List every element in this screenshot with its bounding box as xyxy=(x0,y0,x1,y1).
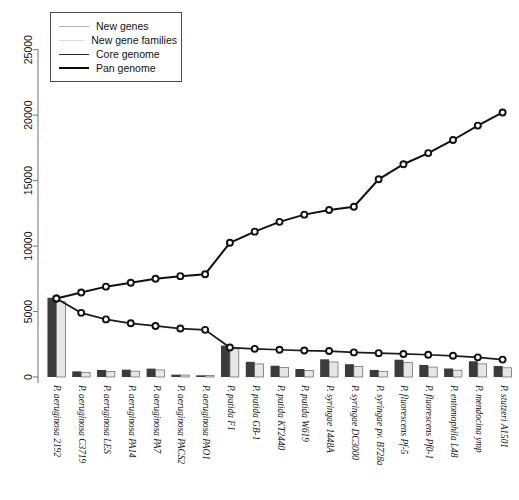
pan-genome-point xyxy=(351,204,357,210)
core-genome-point xyxy=(128,320,134,326)
core-genome-point xyxy=(351,349,357,355)
x-tick-label: P. aeruginosa PACS2 xyxy=(176,384,186,464)
x-tick-label: P. syringae 1448A xyxy=(325,384,335,453)
bar-new-genes xyxy=(196,375,205,377)
pan-genome-point xyxy=(400,161,406,167)
bar-new-gene-families xyxy=(403,362,412,377)
x-tick-label: P. fluorescens Pf0-1 xyxy=(424,384,434,459)
core-genome-point xyxy=(103,316,109,322)
legend-swatch-icon xyxy=(59,26,89,27)
x-tick-label: P. putida F1 xyxy=(226,384,236,431)
x-tick-label: P. fluorescens Pf-5 xyxy=(399,384,409,455)
y-tick-label: 15000 xyxy=(22,166,34,195)
core-genome-point xyxy=(202,327,208,333)
pan-genome-point xyxy=(227,240,233,246)
core-genome-point xyxy=(177,326,183,332)
x-tick-label: P. aeruginosa PAO1 xyxy=(201,384,211,460)
bar-new-genes xyxy=(171,375,180,377)
pan-genome-point xyxy=(177,273,183,279)
bar-new-gene-families xyxy=(478,364,487,377)
pan-genome-point xyxy=(103,284,109,290)
pan-genome-point xyxy=(500,109,506,115)
x-tick-label: P. aeruginosa PA14 xyxy=(127,384,137,458)
x-tick-label: P. entomophila L48 xyxy=(449,384,459,458)
bar-group xyxy=(469,361,487,377)
legend-label: New gene families xyxy=(91,34,177,46)
x-tick-label: P. aeruginosa C3719 xyxy=(77,384,87,463)
core-genome-point xyxy=(475,354,481,360)
legend-item: Pan genome xyxy=(51,61,177,75)
core-genome-point xyxy=(301,348,307,354)
bar-new-gene-families xyxy=(503,368,512,377)
x-tick-label: P. stutzeri A1501 xyxy=(498,384,508,448)
bar-new-genes xyxy=(345,364,354,377)
x-tick-label: P. syringae DC3000 xyxy=(350,384,360,460)
bar-new-genes xyxy=(72,371,81,377)
pan-genome-point xyxy=(475,123,481,129)
bar-group xyxy=(370,370,388,377)
legend-label: New genes xyxy=(96,20,149,32)
bar-group xyxy=(122,370,140,377)
bar-new-genes xyxy=(47,298,56,377)
bar-new-gene-families xyxy=(230,349,239,377)
chart-legend: New genesNew gene familiesCore genomePan… xyxy=(50,12,182,82)
bar-group xyxy=(196,375,214,377)
y-tick-label: 25000 xyxy=(22,35,34,64)
core-genome-point xyxy=(425,352,431,358)
bar-new-genes xyxy=(320,359,329,377)
core-genome-point xyxy=(400,351,406,357)
x-axis-labels: P. aeruginosa 2192P. aeruginosa C3719P. … xyxy=(52,384,508,466)
bar-group xyxy=(494,366,512,377)
bar-new-gene-families xyxy=(131,371,140,377)
legend-swatch-icon xyxy=(59,40,84,41)
bar-new-genes xyxy=(122,370,131,377)
legend-item: Core genome xyxy=(51,47,177,61)
core-genome-point xyxy=(500,357,506,363)
bar-group xyxy=(47,298,65,377)
bar-new-gene-families xyxy=(255,364,264,377)
legend-item: New gene families xyxy=(51,33,177,47)
pan-genome-point xyxy=(252,229,258,235)
x-tick-label: P. mendocina ymp xyxy=(474,384,484,453)
bar-new-gene-families xyxy=(329,362,338,377)
pan-genome-point xyxy=(326,207,332,213)
core-genome-point xyxy=(153,323,159,329)
bar-group xyxy=(444,368,462,377)
bar-group xyxy=(246,362,264,377)
legend-item: New genes xyxy=(51,19,177,33)
core-genome-point xyxy=(376,350,382,356)
bar-new-gene-families xyxy=(180,375,189,377)
bar-new-genes xyxy=(494,366,503,377)
bar-new-genes xyxy=(147,369,156,377)
pan-genome-point xyxy=(153,276,159,282)
bar-new-genes xyxy=(295,369,304,377)
legend-label: Pan genome xyxy=(96,62,156,74)
pan-genome-point xyxy=(450,137,456,143)
pan-genome-point xyxy=(78,290,84,296)
bar-new-genes xyxy=(395,360,404,377)
bar-new-gene-families xyxy=(106,371,115,377)
pan-genome-chart: 0500010000150002000025000 P. aeruginosa … xyxy=(0,0,519,500)
y-tick-label: 10000 xyxy=(22,231,34,260)
bar-group xyxy=(147,369,165,377)
pan-genome-line xyxy=(56,112,502,298)
bar-new-genes xyxy=(246,362,255,377)
bar-new-gene-families xyxy=(379,372,388,377)
pan-genome-point xyxy=(425,150,431,156)
bar-new-gene-families xyxy=(304,370,313,377)
x-tick-label: P. putida W619 xyxy=(300,384,310,442)
x-tick-label: P. putida KT2440 xyxy=(275,384,285,451)
bar-group xyxy=(97,370,115,377)
core-genome-point xyxy=(78,310,84,316)
bar-new-genes xyxy=(469,361,478,377)
x-tick-label: P. syringae pv. B728a xyxy=(375,384,385,466)
core-genome-point xyxy=(227,345,233,351)
core-genome-point xyxy=(450,353,456,359)
bar-group xyxy=(271,366,289,377)
pan-genome-point xyxy=(202,271,208,277)
x-tick-label: P. aeruginosa 2192 xyxy=(52,384,62,457)
bar-new-genes xyxy=(419,365,428,377)
bar-new-gene-families xyxy=(205,376,214,377)
bar-new-gene-families xyxy=(280,368,289,377)
bar-new-genes xyxy=(97,370,106,377)
